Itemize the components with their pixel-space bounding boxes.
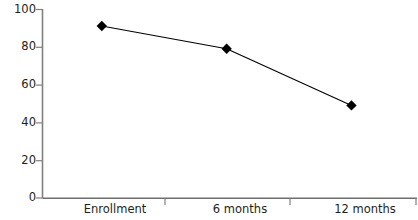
x-tick-label-enrollment: Enrollment (60, 201, 170, 218)
x-tick-label-12-months: 12 months (310, 201, 418, 218)
y-axis-labels: 100 80 60 40 20 0 (0, 0, 36, 220)
y-tick-label-100: 100 (2, 4, 36, 16)
data-series-line (102, 26, 352, 105)
data-point-marker-12-months (346, 100, 356, 110)
x-tick-label-6-months: 6 months (185, 201, 295, 218)
y-tick-label-80: 80 (2, 41, 36, 53)
chart-plot-canvas (0, 0, 418, 220)
data-point-marker-6-months (221, 43, 231, 53)
y-tick-label-60: 60 (2, 79, 36, 91)
data-point-markers (97, 21, 357, 111)
data-point-marker-enrollment (97, 21, 107, 31)
y-tick-label-20: 20 (2, 155, 36, 167)
y-axis-ticks (36, 10, 43, 199)
y-tick-label-40: 40 (2, 117, 36, 129)
y-tick-label-0: 0 (2, 192, 36, 204)
line-chart-figure: 100 80 60 40 20 0 Enrollment 6 months 12… (0, 0, 418, 220)
x-axis-labels: Enrollment 6 months 12 months (42, 201, 418, 220)
